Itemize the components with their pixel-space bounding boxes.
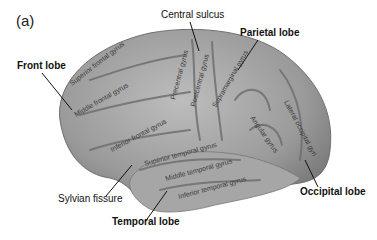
label-parietal-lobe: Parietal lobe [240,27,299,38]
brain-diagram: Superior frontal gyrus Middle frontal gy… [0,0,377,240]
panel-label: (a) [16,12,34,29]
label-temporal-lobe: Temporal lobe [112,216,180,227]
label-central-sulcus: Central sulcus [161,9,224,20]
label-sylvian-fissure: Sylvian fissure [58,193,122,204]
label-frontal-lobe: Front lobe [17,60,66,71]
label-occipital-lobe: Occipital lobe [300,186,366,197]
